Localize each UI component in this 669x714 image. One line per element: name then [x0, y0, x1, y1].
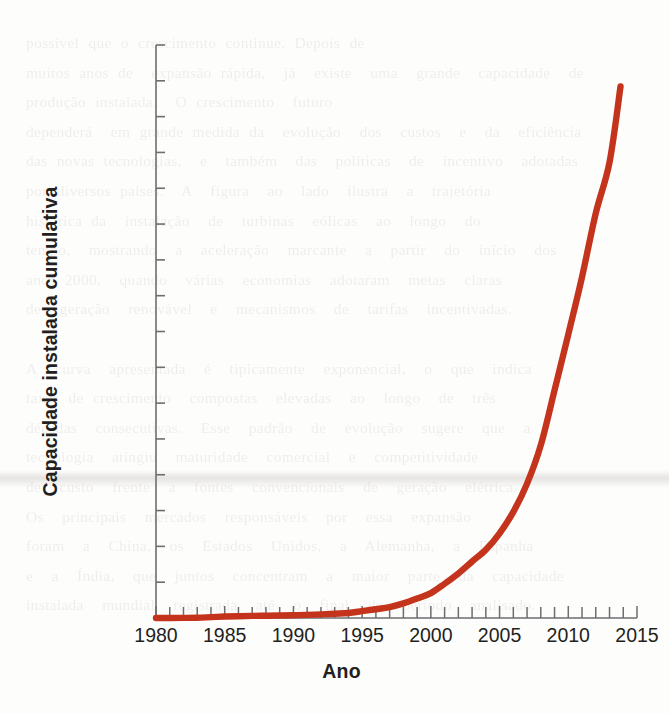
x-axis-title: Ano — [0, 660, 669, 683]
y-axis-title: Capacidade instalada cumulativa — [39, 32, 62, 652]
x-axis-tick-label: 1995 — [340, 624, 383, 647]
x-axis-tick-label: 2015 — [615, 624, 658, 647]
x-axis-tick-label: 2005 — [478, 624, 521, 647]
x-axis-tick-label: 2010 — [547, 624, 590, 647]
y-axis-ticks — [156, 45, 165, 618]
x-axis-tick-label: 1985 — [203, 624, 246, 647]
axes — [156, 45, 637, 618]
x-axis-title-text: Ano — [322, 660, 361, 682]
y-axis-tick-labels: 025.00050.00075.000100.000125.000150.000… — [0, 0, 150, 714]
data-series-line — [156, 87, 621, 618]
x-axis-tick-labels: 19801985199019952000200520102015 — [0, 624, 669, 654]
x-axis-tick-label: 2000 — [409, 624, 452, 647]
x-axis-tick-label: 1990 — [272, 624, 315, 647]
x-axis-tick-label: 1980 — [134, 624, 177, 647]
figure-container: possível que o crescimento continue. Dep… — [0, 0, 669, 714]
